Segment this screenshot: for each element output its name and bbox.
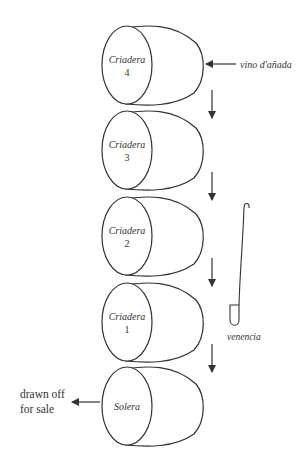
barrel-head bbox=[102, 111, 152, 189]
input-label: vino d'añada bbox=[240, 59, 292, 70]
barrel-number: 4 bbox=[125, 67, 130, 78]
venencia-icon bbox=[230, 204, 249, 326]
barrel-head bbox=[102, 197, 152, 275]
barrel-name: Criadera bbox=[109, 139, 146, 150]
barrel-1: Criadera1 bbox=[102, 283, 203, 362]
barrel-2: Criadera2 bbox=[102, 197, 203, 276]
barrel-name: Criadera bbox=[109, 311, 146, 322]
barrel-name: Solera bbox=[114, 401, 140, 412]
barrel-head bbox=[102, 283, 152, 361]
barrel-head bbox=[102, 26, 152, 104]
barrel-number: 1 bbox=[125, 324, 130, 335]
solera-diagram: Criadera4Criadera3Criadera2Criadera1Sole… bbox=[0, 0, 296, 459]
barrel-name: Criadera bbox=[109, 54, 146, 65]
barrel-solera: Solera bbox=[102, 367, 203, 446]
barrel-number: 2 bbox=[125, 238, 130, 249]
barrel-4: Criadera4 bbox=[102, 26, 203, 105]
venencia-label: venencia bbox=[227, 332, 261, 342]
barrel-name: Criadera bbox=[109, 225, 146, 236]
output-label-line2: for sale bbox=[20, 403, 54, 415]
barrel-3: Criadera3 bbox=[102, 111, 203, 190]
output-label-line1: drawn off bbox=[20, 388, 65, 400]
barrel-number: 3 bbox=[125, 152, 130, 163]
